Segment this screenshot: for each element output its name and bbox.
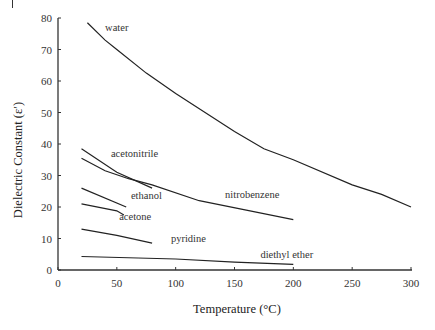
series-label-diethyl-ether: diethyl ether — [260, 249, 313, 260]
y-tick-label: 0 — [47, 264, 53, 276]
series-label-water: water — [105, 22, 129, 33]
series-line-ethanol — [82, 188, 127, 207]
series-label-acetone: acetone — [119, 211, 151, 222]
y-tick-label: 80 — [41, 12, 53, 24]
series-labels: wateracetonitrilenitrobenzeneethanolacet… — [105, 22, 314, 260]
x-tick-label: 50 — [111, 277, 123, 289]
y-axis-title: Dielectric Constant (ε′) — [11, 102, 25, 218]
series-line-water — [87, 23, 411, 207]
y-tick-label: 70 — [41, 44, 53, 56]
series-label-ethanol: ethanol — [131, 190, 162, 201]
series-label-nitrobenzene: nitrobenzene — [225, 189, 280, 200]
series-label-acetonitrile: acetonitrile — [111, 148, 159, 159]
x-tick-label: 300 — [403, 277, 420, 289]
y-tick-label: 20 — [41, 201, 53, 213]
y-tick-label: 10 — [41, 233, 53, 245]
y-tick-label: 50 — [41, 107, 53, 119]
x-tick-label: 0 — [55, 277, 61, 289]
series-line-acetone — [82, 204, 124, 215]
y-tick-label: 60 — [41, 75, 53, 87]
series-label-pyridine: pyridine — [171, 233, 206, 244]
series-group — [82, 23, 412, 265]
y-tick-label: 40 — [41, 138, 53, 150]
line-chart: 01020304050607080 050100150200250300 wat… — [0, 0, 435, 330]
x-tick-label: 250 — [344, 277, 361, 289]
x-tick-label: 200 — [285, 277, 302, 289]
x-tick-label: 100 — [167, 277, 184, 289]
x-tick-label: 150 — [226, 277, 243, 289]
x-axis-title: Temperature (°C) — [193, 302, 281, 316]
series-line-pyridine — [82, 229, 153, 243]
y-tick-label: 30 — [41, 170, 53, 182]
